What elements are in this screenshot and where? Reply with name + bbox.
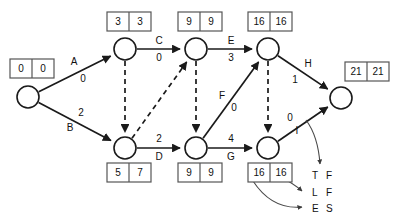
- earliest-start-value: 5: [115, 167, 121, 178]
- time-box-n7: 1616: [248, 163, 292, 182]
- activity-name-G: G: [227, 151, 235, 162]
- earliest-start-value: 16: [253, 16, 265, 27]
- earliest-start-value: 0: [18, 63, 24, 74]
- legend-es-second-letter: S: [326, 203, 333, 214]
- event-node-n4: [257, 38, 279, 60]
- event-node-n1: [17, 86, 39, 108]
- event-node-n6: [185, 137, 207, 159]
- event-node-n7: [257, 137, 279, 159]
- diagram-canvas: 0033991616212157991616 A0B2C0E3H1D2G4F0I…: [0, 0, 400, 219]
- latest-finish-value: 9: [208, 167, 214, 178]
- activity-arrow-B: [39, 103, 111, 141]
- legend-tf-first-letter: T: [312, 170, 318, 181]
- time-box-n3: 99: [178, 12, 222, 31]
- activity-duration-E: 3: [228, 52, 234, 63]
- time-box-n5: 57: [107, 163, 151, 182]
- time-box-n8: 2121: [345, 62, 389, 81]
- dummy-edge-layer: [125, 61, 268, 138]
- legend-es-first-letter: E: [312, 203, 319, 214]
- activity-edge-layer: [39, 49, 328, 148]
- activity-arrow-H: [278, 56, 328, 89]
- event-node-n2: [114, 38, 136, 60]
- activity-name-A: A: [71, 56, 78, 67]
- activity-name-H: H: [304, 58, 311, 69]
- activity-duration-D: 2: [156, 133, 162, 144]
- legend-lf-first-letter: L: [312, 187, 318, 198]
- latest-finish-value: 16: [275, 16, 287, 27]
- network-diagram-svg: 0033991616212157991616 A0B2C0E3H1D2G4F0I…: [0, 0, 400, 219]
- legend-tf-second-letter: F: [326, 170, 332, 181]
- earliest-start-value: 9: [186, 16, 192, 27]
- activity-name-C: C: [155, 35, 162, 46]
- activity-duration-B: 2: [78, 107, 84, 118]
- activity-name-D: D: [155, 151, 162, 162]
- latest-finish-value: 0: [40, 63, 46, 74]
- dummy-activity-d2: [132, 62, 187, 138]
- latest-finish-value: 16: [275, 167, 287, 178]
- earliest-start-value: 21: [350, 66, 362, 77]
- legend-layer: TFLFES: [312, 170, 333, 214]
- event-node-n3: [185, 38, 207, 60]
- activity-duration-I: 0: [287, 112, 293, 123]
- legend-lf-second-letter: F: [326, 187, 332, 198]
- activity-name-I: I: [296, 125, 299, 136]
- activity-duration-C: 0: [156, 52, 162, 63]
- latest-finish-value: 7: [137, 167, 143, 178]
- activity-arrow-F: [203, 62, 259, 138]
- latest-finish-value: 21: [372, 66, 384, 77]
- time-box-n2: 33: [107, 12, 151, 31]
- activity-name-B: B: [67, 122, 74, 133]
- activity-duration-A: 0: [80, 73, 86, 84]
- activity-duration-G: 4: [228, 133, 234, 144]
- latest-finish-value: 9: [208, 16, 214, 27]
- callout-tf: [306, 120, 320, 164]
- earliest-start-value: 3: [115, 16, 121, 27]
- time-box-n6: 99: [178, 163, 222, 182]
- activity-duration-F: 0: [231, 102, 237, 113]
- event-node-n8: [330, 87, 352, 109]
- activity-arrow-I: [278, 107, 328, 141]
- event-node-n5: [114, 137, 136, 159]
- time-box-n4: 1616: [248, 12, 292, 31]
- activity-name-E: E: [228, 35, 235, 46]
- time-box-n1: 00: [10, 59, 54, 78]
- latest-finish-value: 3: [137, 16, 143, 27]
- earliest-start-value: 9: [186, 167, 192, 178]
- activity-duration-H: 1: [292, 74, 298, 85]
- activity-name-F: F: [219, 90, 225, 101]
- earliest-start-value: 16: [253, 167, 265, 178]
- event-node-layer: [17, 38, 352, 159]
